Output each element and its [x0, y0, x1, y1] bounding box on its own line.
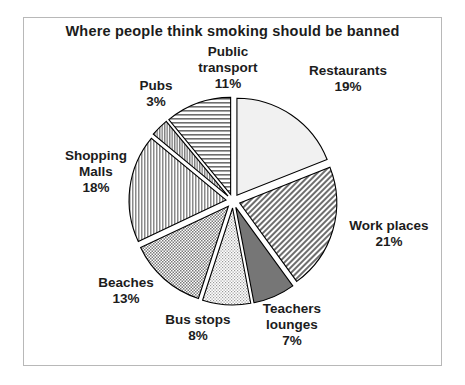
slice-label-beaches: Beaches 13% — [74, 275, 178, 307]
slice-label-public-transport: Public transport 11% — [171, 44, 285, 91]
chart-frame: Where people think smoking should be ban… — [23, 17, 442, 366]
slice-label-bus-stops: Bus stops 8% — [146, 312, 250, 344]
slice-label-restaurants: Restaurants 19% — [288, 63, 408, 95]
slice-label-work-places: Work places 21% — [334, 218, 444, 250]
slice-label-teachers-lounges: Teachers lounges 7% — [240, 301, 344, 348]
slice-label-shopping-malls: Shopping Malls 18% — [41, 148, 151, 195]
